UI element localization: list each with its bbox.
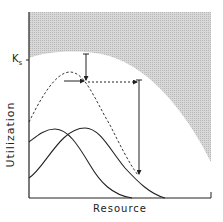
shaded-region — [29, 12, 211, 162]
solid-curve-1 — [29, 129, 132, 198]
x-axis-label: Resource — [29, 203, 211, 214]
ks-label: Ks — [12, 53, 22, 67]
utilization-resource-diagram: Ks Utilization Resource — [0, 0, 223, 222]
solid-curve-2 — [29, 128, 165, 198]
ks-label-subscript: s — [19, 59, 23, 67]
diagram-canvas — [0, 0, 223, 222]
y-axis-label: Utilization — [4, 100, 17, 170]
